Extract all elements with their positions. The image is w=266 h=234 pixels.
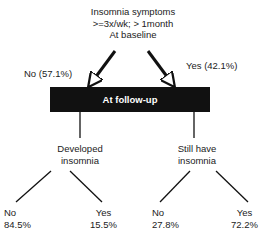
leaf-label: Yes [90,207,117,219]
arrow-no [89,51,115,86]
root-line-2: >=3x/wk; > 1month [83,18,183,30]
left-node: Developed insomnia [40,143,120,166]
leaf-value: 72.2% [231,219,258,231]
leaf-value: 15.5% [90,219,117,231]
leaf-value: 84.5% [4,219,31,231]
left-no-leaf: No 84.5% [4,207,31,230]
arrow-yes [148,51,174,86]
branch-yes-label: Yes (42.1%) [186,60,237,72]
right-node: Still have insomnia [164,143,230,166]
leaf-label: No [4,207,31,219]
leaf-label: Yes [231,207,258,219]
left-title-1: Developed [40,143,120,155]
right-no-leaf: No 27.8% [152,207,179,230]
root-line-1: Insomnia symptoms [83,6,183,18]
followup-box: At follow-up [50,87,210,112]
right-title-1: Still have [164,143,230,155]
right-title-2: insomnia [164,155,230,167]
root-node: Insomnia symptoms >=3x/wk; > 1month At b… [83,6,183,41]
root-line-3: At baseline [83,29,183,41]
right-yes-leaf: Yes 72.2% [231,207,258,230]
left-yes-leaf: Yes 15.5% [90,207,117,230]
leaf-label: No [152,207,179,219]
branch-no-label: No (57.1%) [24,68,72,80]
leaf-value: 27.8% [152,219,179,231]
left-title-2: insomnia [40,155,120,167]
